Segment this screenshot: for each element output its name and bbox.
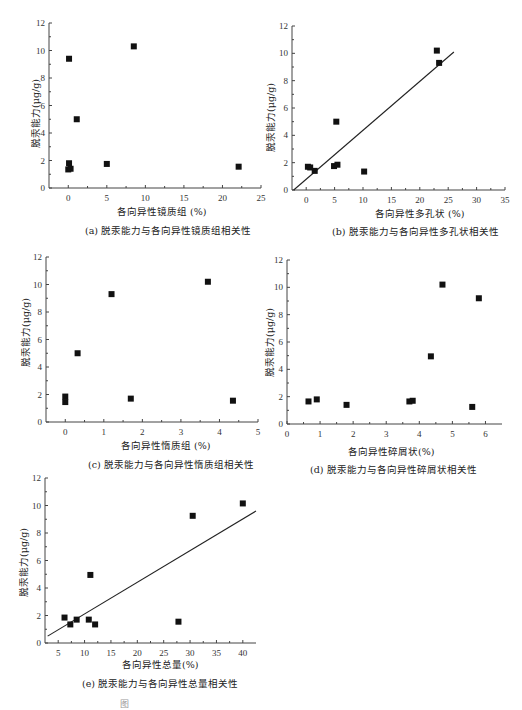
x-tick-label: 2 (140, 427, 145, 437)
x-tick-label: 15 (106, 648, 116, 658)
y-tick-label: 2 (37, 611, 42, 621)
y-axis-label-b: 脱汞能力(μg/g) (263, 83, 277, 152)
y-tick-label: 12 (36, 18, 45, 28)
x-tick-label: 0 (66, 193, 71, 203)
y-tick-label: 4 (279, 364, 284, 374)
data-point-marker (230, 398, 236, 404)
x-tick-label: 25 (444, 195, 454, 205)
data-point-marker (314, 396, 320, 402)
y-tick-label: 8 (279, 310, 284, 320)
x-tick-label: 1 (102, 427, 107, 437)
y-tick-label: 10 (33, 280, 43, 290)
data-point-marker (131, 43, 137, 49)
x-tick-label: 4 (417, 429, 422, 439)
data-point-marker (190, 513, 196, 519)
data-point-marker (68, 166, 74, 172)
y-tick-label: 12 (279, 21, 288, 31)
y-tick-label: 12 (33, 252, 42, 262)
axes-a: 0246810120510152025 (36, 18, 266, 203)
x-tick-label: 3 (179, 427, 184, 437)
caption-d: (d) 脱汞能力与各向异性碎屑状相关性 (310, 462, 477, 476)
data-point-marker (62, 399, 68, 405)
data-point-marker (434, 48, 440, 54)
data-point-marker (66, 160, 72, 166)
x-axis-label-c: 各向异性惰质组 (%) (121, 438, 210, 452)
y-tick-label: 8 (38, 307, 43, 317)
y-axis-label-a: 脱汞能力(μg/g) (28, 79, 42, 148)
data-point-marker (344, 402, 350, 408)
y-tick-label: 2 (284, 158, 289, 168)
y-tick-label: 4 (38, 362, 43, 372)
data-point-marker (66, 56, 72, 62)
caption-e: (e) 脱汞能力与各向异性总量相关性 (82, 676, 238, 690)
data-point-marker (75, 350, 81, 356)
data-point-marker (439, 282, 445, 288)
x-tick-label: 15 (387, 195, 397, 205)
x-tick-label: 5 (450, 429, 455, 439)
data-point-marker (109, 291, 115, 297)
x-tick-label: 5 (332, 195, 337, 205)
data-point-marker (67, 621, 73, 627)
y-tick-label: 4 (284, 130, 289, 140)
data-point-marker (436, 60, 442, 66)
data-point-marker (306, 398, 312, 404)
x-tick-label: 20 (415, 195, 425, 205)
data-point-marker (334, 162, 340, 168)
data-point-marker (87, 572, 93, 578)
y-tick-label: 6 (284, 103, 289, 113)
x-tick-label: 35 (212, 648, 222, 658)
y-tick-label: 2 (41, 156, 46, 166)
y-tick-label: 8 (37, 528, 42, 538)
data-point-marker (333, 119, 339, 125)
chart-panel-b: 02468101205101520253035 脱汞能力(μg/g) 各向异性多… (260, 0, 522, 235)
x-tick-label: 15 (179, 193, 189, 203)
data-point-marker (74, 617, 80, 623)
data-point-marker (128, 396, 134, 402)
x-tick-label: 0 (285, 429, 290, 439)
y-tick-label: 0 (38, 417, 43, 427)
x-tick-label: 0 (304, 195, 309, 205)
x-tick-label: 1 (318, 429, 323, 439)
axes-b: 02468101205101520253035 (279, 21, 510, 205)
x-tick-label: 5 (56, 648, 61, 658)
x-axis-label-b: 各向异性多孔状 (%) (375, 206, 464, 220)
y-tick-label: 4 (37, 583, 42, 593)
x-tick-label: 10 (80, 648, 90, 658)
chart-panel-e: 024681012510152025303540 脱汞能力(μg/g) 各向异性… (0, 465, 265, 700)
data-point-marker (62, 615, 68, 621)
chart-panel-a: 0246810120510152025 脱汞能力(μg/g) 各向异性镜质组 (… (0, 0, 265, 235)
x-tick-label: 40 (238, 648, 248, 658)
data-point-marker (312, 168, 318, 174)
x-tick-label: 10 (359, 195, 369, 205)
data-point-marker (175, 619, 181, 625)
y-axis-label-d: 脱汞能力(μg/g) (262, 308, 276, 377)
axes-e: 024681012510152025303540 (32, 473, 256, 658)
x-tick-label: 6 (483, 429, 488, 439)
y-tick-label: 0 (284, 185, 289, 195)
y-tick-label: 0 (37, 638, 42, 648)
axes-d: 0246810120123456 (274, 255, 502, 439)
scatter-plot-d: 0246810120123456 (260, 235, 522, 470)
x-tick-label: 10 (141, 193, 151, 203)
data-point-marker (410, 398, 416, 404)
y-tick-label: 2 (279, 392, 284, 402)
figure-caption-partial: 图 (120, 697, 129, 710)
y-tick-label: 10 (32, 501, 42, 511)
chart-panel-c: 024681012012345 脱汞能力(μg/g) 各向异性惰质组 (%) (… (0, 235, 265, 470)
data-point-marker (361, 169, 367, 175)
x-tick-label: 3 (384, 429, 389, 439)
x-tick-label: 30 (472, 195, 482, 205)
chart-panel-d: 0246810120123456 脱汞能力(μg/g) 各向异性碎屑状(%) (… (260, 235, 522, 470)
x-tick-label: 5 (105, 193, 110, 203)
data-point-marker (205, 279, 211, 285)
data-point-marker (428, 353, 434, 359)
y-tick-label: 10 (36, 46, 46, 56)
y-tick-label: 6 (38, 335, 43, 345)
data-point-marker (104, 161, 110, 167)
data-point-marker (86, 617, 92, 623)
data-point-marker (74, 116, 80, 122)
y-tick-label: 10 (279, 48, 289, 58)
data-point-marker (92, 621, 98, 627)
data-point-marker (469, 404, 475, 410)
y-tick-label: 0 (41, 183, 46, 193)
